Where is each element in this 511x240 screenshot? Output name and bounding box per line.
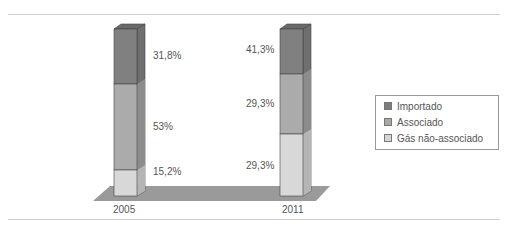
label-2011-importado: 41,3% (246, 44, 274, 55)
legend-item-importado: Importado (384, 101, 442, 112)
label-2011-nao-associado: 29,3% (246, 160, 274, 171)
legend-item-nao-associado: Gás não-associado (384, 133, 483, 144)
label-2005-associado: 53% (153, 121, 173, 132)
segment-nao-associado-2011 (280, 134, 303, 196)
segment-associado-2005 (114, 84, 137, 170)
label-year-2011: 2011 (282, 204, 304, 215)
legend-swatch-nao-associado (384, 134, 392, 142)
bar-2011 (280, 24, 311, 196)
legend-label: Associado (397, 117, 443, 128)
segment-importado-2011 (280, 29, 303, 74)
legend-swatch-importado (384, 102, 392, 110)
label-2005-nao-associado: 15,2% (153, 166, 181, 177)
label-year-2005: 2005 (113, 204, 135, 215)
segment-importado-2005 (114, 29, 137, 84)
segment-associado-2011 (280, 74, 303, 134)
label-2005-importado: 31,8% (153, 50, 181, 61)
segment-nao-associado-2005 (114, 170, 137, 196)
legend-swatch-associado (384, 118, 392, 126)
chart-legend: Importado Associado Gás não-associado (375, 95, 499, 150)
bar-2005 (114, 24, 145, 196)
legend-label: Gás não-associado (397, 133, 483, 144)
label-2011-associado: 29,3% (246, 98, 274, 109)
legend-item-associado: Associado (384, 117, 443, 128)
legend-label: Importado (397, 101, 442, 112)
